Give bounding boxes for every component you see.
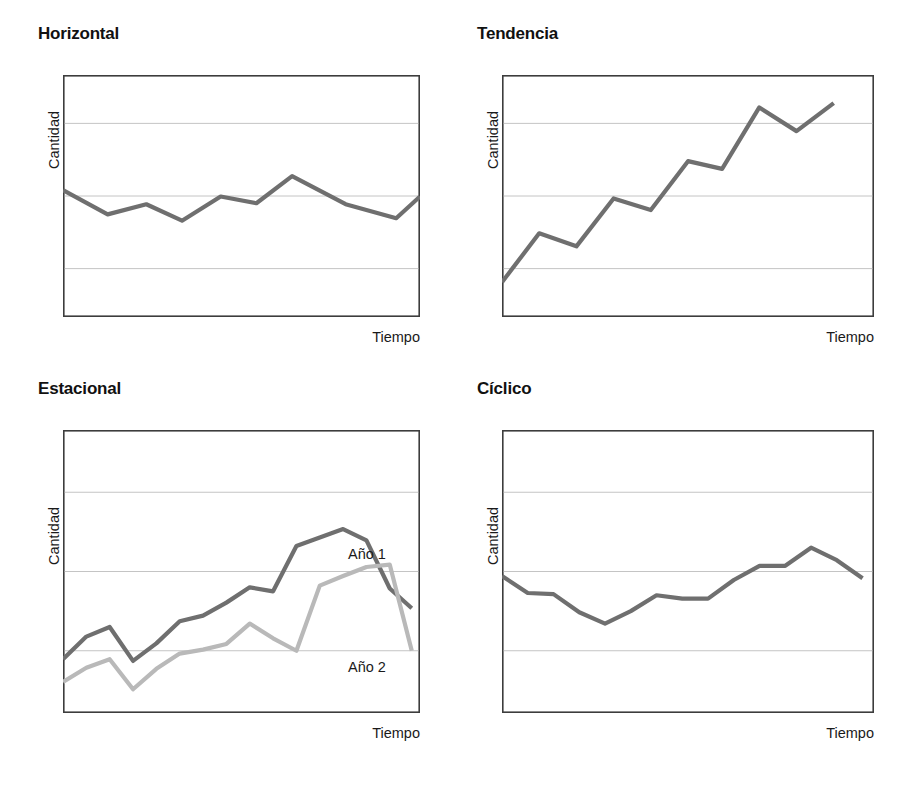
panel-title: Tendencia bbox=[477, 24, 558, 44]
x-axis-label: Tiempo bbox=[826, 329, 874, 345]
y-axis-label: Cantidad bbox=[46, 507, 62, 565]
panel-ciclico: Cíclico Cantidad Tiempo bbox=[469, 379, 884, 734]
line-chart-horizontal bbox=[63, 75, 420, 317]
line-chart-ciclico bbox=[502, 430, 874, 713]
panel-horizontal: Horizontal Cantidad Tiempo bbox=[30, 24, 430, 364]
figure-canvas: Horizontal Cantidad Tiempo Tendencia Can… bbox=[0, 0, 912, 793]
line-chart-estacional: Año 1Año 2 bbox=[63, 430, 420, 713]
x-axis-label: Tiempo bbox=[372, 725, 420, 741]
y-axis-label: Cantidad bbox=[485, 111, 501, 169]
panel-tendencia: Tendencia Cantidad Tiempo bbox=[469, 24, 884, 364]
panel-title: Estacional bbox=[38, 379, 121, 399]
y-axis-label: Cantidad bbox=[46, 111, 62, 169]
plot-area bbox=[502, 430, 874, 713]
series-annotation: Año 2 bbox=[348, 659, 386, 675]
plot-area bbox=[63, 75, 420, 317]
plot-area bbox=[502, 75, 874, 317]
line-chart-tendencia bbox=[502, 75, 874, 317]
x-axis-label: Tiempo bbox=[372, 329, 420, 345]
panel-estacional: Estacional Cantidad Año 1Año 2 Tiempo bbox=[30, 379, 430, 734]
y-axis-label: Cantidad bbox=[485, 507, 501, 565]
panel-title: Cíclico bbox=[477, 379, 531, 399]
series-annotation: Año 1 bbox=[348, 546, 386, 562]
panel-title: Horizontal bbox=[38, 24, 119, 44]
x-axis-label: Tiempo bbox=[826, 725, 874, 741]
plot-area: Año 1Año 2 bbox=[63, 430, 420, 713]
